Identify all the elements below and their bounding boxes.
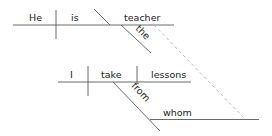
word-modifier-the: the — [134, 23, 153, 42]
word-complement-teacher: teacher — [124, 12, 160, 23]
word-object-lessons: lessons — [151, 69, 186, 80]
word-verb-is: is — [71, 12, 79, 23]
word-subject-i: I — [70, 69, 73, 80]
word-preposition-from: from — [130, 80, 153, 104]
main-complement-divider — [94, 9, 110, 25]
sentence-diagram: He is teacher the I take lessons from wh… — [0, 0, 272, 136]
word-subject-he: He — [29, 12, 42, 23]
word-prep-object-whom: whom — [163, 107, 192, 118]
word-verb-take: take — [101, 69, 122, 80]
